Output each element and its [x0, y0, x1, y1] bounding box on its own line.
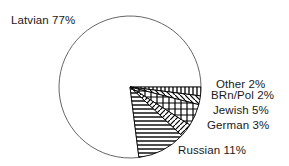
pie-label-latvian: Latvian 77% [11, 14, 75, 27]
pie-label-brnpol: BRn/Pol 2% [211, 89, 274, 102]
pie-label-russian: Russian 11% [178, 144, 246, 157]
pie-label-jewish: Jewish 5% [213, 104, 269, 117]
chart-canvas: Latvian 77% Other 2% BRn/Pol 2% Jewish 5… [0, 0, 289, 166]
pie-label-german: German 3% [207, 119, 269, 132]
